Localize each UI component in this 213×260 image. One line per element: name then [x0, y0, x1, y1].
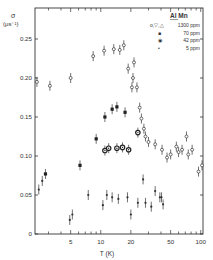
x-axis-label: T (K) [100, 250, 114, 258]
data-point-1300ppm [147, 140, 150, 143]
y-tick-label: 0.25 [20, 35, 33, 42]
axis-ticks: 00.050.100.150.200.255102050100 [20, 8, 207, 245]
legend: Al Mno,▽,△1300 ppm■70 ppm◉42 ppm•5 ppm [150, 12, 200, 51]
data-point-1300ppm [177, 151, 180, 154]
data-point-1300ppm [122, 44, 125, 47]
data-point-1300ppm [142, 127, 145, 130]
data-point-1300ppm [69, 77, 72, 80]
data-point-1300ppm [135, 86, 138, 89]
data-point-1300ppm [144, 135, 147, 138]
data-point-5ppm [38, 188, 40, 190]
data-point-5ppm [41, 180, 43, 182]
legend-symbol: ◉ [158, 37, 163, 43]
data-point-1300ppm [35, 80, 38, 83]
data-point-1300ppm [185, 135, 188, 138]
legend-symbol: o,▽,△ [150, 22, 164, 28]
data-point-1300ppm [169, 153, 172, 156]
data-point-1300ppm [166, 156, 169, 159]
data-point-1300ppm [201, 164, 204, 167]
data-point-1300ppm [181, 148, 184, 151]
data-point-70ppm [123, 111, 126, 114]
data-point-1300ppm [161, 148, 164, 151]
data-point-70ppm [111, 108, 114, 111]
plot-border [35, 8, 203, 234]
data-point-70ppm [103, 115, 106, 118]
data-point-1300ppm [103, 49, 106, 52]
data-point-1300ppm [138, 106, 141, 109]
legend-label: 1300 ppm [178, 22, 200, 28]
data-point-1300ppm [112, 48, 115, 51]
x-tick-label: 10 [97, 238, 104, 245]
x-tick-label: 100 [196, 238, 207, 245]
axes-frame [35, 8, 203, 234]
data-point-1300ppm [197, 170, 200, 173]
data-point-5ppm [102, 204, 104, 206]
data-point-5ppm [69, 219, 71, 221]
data-point-70ppm [95, 137, 98, 140]
data-point-1300ppm [187, 153, 190, 156]
data-point-1300ppm [154, 143, 157, 146]
y-tick-label: 0.10 [20, 152, 33, 159]
data-point-70ppm [44, 172, 47, 175]
data-point-5ppm [160, 196, 162, 198]
data-point-1300ppm [191, 148, 194, 151]
y-axis-label-symbol: σ [11, 12, 16, 19]
legend-label: 5 ppm [186, 45, 200, 51]
chart-container: 00.050.100.150.200.255102050100 Al Mno,▽… [0, 0, 213, 260]
data-point-5ppm [71, 213, 73, 215]
x-tick-label: 50 [167, 238, 174, 245]
legend-symbol: • [158, 45, 160, 51]
data-point-5ppm [87, 194, 89, 196]
data-point-1300ppm [131, 77, 134, 80]
data-point-5ppm [106, 194, 108, 196]
legend-symbol: ■ [158, 30, 161, 36]
data-point-5ppm [162, 203, 164, 205]
data-point-5ppm [150, 206, 152, 208]
y-tick-label: 0 [29, 230, 33, 237]
y-tick-label: 0.05 [20, 191, 33, 198]
data-point-1300ppm [48, 84, 51, 87]
data-point-5ppm [111, 196, 113, 198]
data-point-70ppm [115, 105, 118, 108]
y-tick-label: 0.15 [20, 113, 33, 120]
y-tick-label: 0.20 [20, 74, 33, 81]
data-point-70ppm [78, 164, 81, 167]
y-axis-label-unit: (μs⁻¹) [3, 21, 18, 27]
legend-label: 42 ppm [183, 37, 200, 43]
data-point-5ppm [142, 178, 144, 180]
data-point-1300ppm [133, 61, 136, 64]
data-point-1300ppm [118, 48, 121, 51]
data-point-5ppm [117, 198, 119, 200]
data-point-5ppm [137, 202, 139, 204]
data-point-1300ppm [127, 67, 130, 70]
data-point-1300ppm [175, 145, 178, 148]
legend-title: Al Mn [170, 12, 188, 19]
data-point-1300ppm [130, 86, 133, 89]
x-tick-label: 5 [69, 238, 73, 245]
data-point-1300ppm [140, 117, 143, 120]
data-points [35, 40, 203, 225]
data-point-5ppm [144, 202, 146, 204]
scatter-plot: 00.050.100.150.200.255102050100 Al Mno,▽… [0, 0, 213, 260]
data-point-1300ppm [92, 55, 95, 58]
x-tick-label: 20 [127, 238, 134, 245]
data-point-5ppm [130, 213, 132, 215]
data-point-5ppm [126, 196, 128, 198]
data-point-5ppm [154, 190, 156, 192]
legend-label: 70 ppm [183, 30, 200, 36]
